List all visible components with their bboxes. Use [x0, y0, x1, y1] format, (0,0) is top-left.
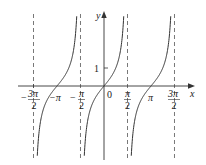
tangent-graph: y x 1 0 − 3π 2 −π − π 2 π 2 π 3π 2	[0, 0, 206, 165]
tick-label-pi2-num: π	[125, 88, 131, 99]
tick-label-neg-pi2-num: π	[79, 88, 85, 99]
tick-label-3pi2-den: 2	[172, 100, 177, 111]
y-tick-label-1: 1	[94, 63, 99, 74]
x-axis-label: x	[189, 88, 195, 99]
tick-label-pi: π	[148, 92, 154, 103]
tick-label-neg-3pi2-den: 2	[32, 100, 37, 111]
plot-area: y x 1 0 − 3π 2 −π − π 2 π 2 π 3π 2	[0, 0, 206, 165]
tick-label-3pi2-num: 3π	[167, 88, 179, 99]
tick-label-neg-3pi2-sign: −	[21, 92, 27, 103]
tick-label-neg-pi2-den: 2	[79, 100, 84, 111]
tick-label-pi2-den: 2	[125, 100, 130, 111]
y-axis-label: y	[95, 10, 101, 21]
tick-label-neg-pi: −π	[49, 92, 62, 103]
y-axis-arrow-icon	[101, 11, 106, 18]
tick-label-neg-pi2-sign: −	[70, 92, 76, 103]
origin-label: 0	[107, 89, 112, 100]
tick-label-neg-3pi2-num: 3π	[27, 88, 39, 99]
